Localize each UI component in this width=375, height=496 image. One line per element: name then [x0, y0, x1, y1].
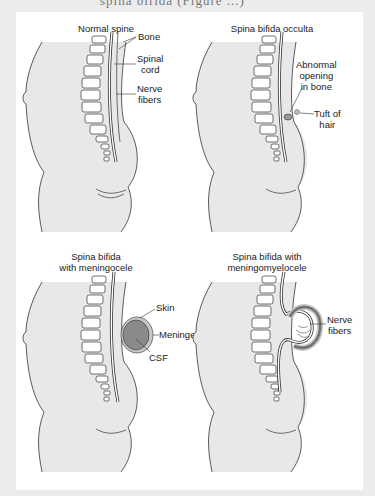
- meningomyelocele-illustration: [190, 242, 363, 490]
- figure-spina-bifida-occulta: Spina bifida occulta: [190, 12, 363, 242]
- label-tuft-of-hair: Tuft of hair: [314, 108, 341, 130]
- label-bone: Bone: [138, 31, 160, 42]
- figure-panel: Normal spine: [16, 12, 363, 490]
- label-nerve-fibers: Nerve fibers: [137, 83, 162, 105]
- normal-spine-illustration: [16, 12, 190, 242]
- label-csf: CSF: [149, 352, 168, 363]
- figure-meningomyelocele: Spina bifida with meningomyelocele: [190, 242, 363, 490]
- label-spinal-cord: Spinal cord: [137, 53, 163, 75]
- clipped-caption: spina bifida (Figure ...): [100, 0, 245, 9]
- label-skin: Skin: [156, 302, 174, 313]
- label-nerve-fibers: Nerve fibers: [327, 314, 352, 336]
- label-abnormal-opening: Abnormal opening in bone: [296, 59, 337, 92]
- figure-meningocele: Spina bifida with meningocele: [16, 242, 190, 490]
- figure-normal-spine: Normal spine: [16, 12, 190, 242]
- meningocele-illustration: [16, 242, 190, 490]
